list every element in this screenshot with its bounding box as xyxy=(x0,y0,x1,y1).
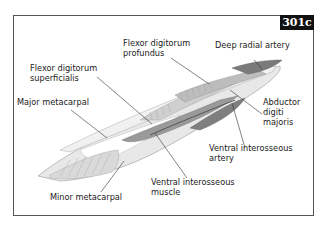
label-abductor-digiti-majoris: Abductor digiti majoris xyxy=(263,97,300,127)
label-ventral-interosseous-muscle: Ventral interosseous muscle xyxy=(151,177,235,197)
label-deep-radial-artery: Deep radial artery xyxy=(215,40,290,50)
label-minor-metacarpal: Minor metacarpal xyxy=(50,192,122,202)
label-ventral-interosseous-artery: Ventral interosseous artery xyxy=(209,143,293,163)
label-flexor-digitorum-superficialis: Flexor digitorum superficialis xyxy=(30,63,97,83)
label-flexor-digitorum-profundus: Flexor digitorum profundus xyxy=(123,38,190,58)
label-major-metacarpal: Major metacarpal xyxy=(17,97,89,107)
